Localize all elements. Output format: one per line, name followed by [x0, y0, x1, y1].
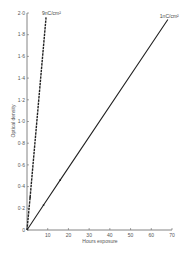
series-label: 1nC/cm² — [160, 13, 179, 19]
x-tick-label: 60 — [149, 232, 155, 238]
series-line-1 — [27, 20, 168, 230]
y-tick-label: 0·2 — [18, 205, 25, 211]
y-tick-label: 1·4 — [18, 75, 25, 81]
x-axis-label: Hours exposure — [82, 238, 118, 244]
y-tick-label: 1·0 — [18, 118, 25, 124]
y-tick-label: 0·4 — [18, 183, 25, 189]
x-tick-label: 10 — [45, 232, 51, 238]
y-axis-label: Optical density — [10, 104, 16, 137]
x-tick-label: 70 — [169, 232, 175, 238]
optical-density-chart: 00·20·40·60·81·01·21·41·61·82·0 10203040… — [0, 0, 190, 253]
data-point — [59, 179, 61, 181]
x-tick-label: 20 — [66, 232, 72, 238]
series-lines: 9nC/cm²1nC/cm² — [27, 10, 179, 230]
y-tick-label: 1·6 — [18, 53, 25, 59]
y-tick-label: 1·8 — [18, 31, 25, 37]
x-tick-label: 50 — [128, 232, 134, 238]
y-tick-label: 0 — [22, 227, 25, 233]
x-axis-ticks: 10203040506070 — [45, 228, 175, 238]
y-tick-label: 2·0 — [18, 10, 25, 16]
y-tick-label: 0·8 — [18, 140, 25, 146]
y-tick-label: 0·6 — [18, 162, 25, 168]
series-label: 9nC/cm² — [42, 10, 61, 16]
data-point — [43, 204, 45, 206]
y-tick-label: 1·2 — [18, 97, 25, 103]
data-point — [29, 197, 31, 199]
